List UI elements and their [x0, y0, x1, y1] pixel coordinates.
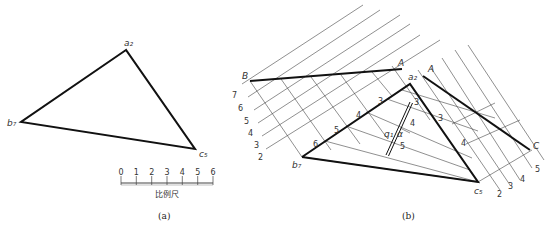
left-scale-7: 7	[232, 91, 237, 100]
scale-tick-3: 3	[165, 168, 170, 177]
angle-alpha-label: α	[397, 129, 403, 139]
right-scale-3: 3	[508, 182, 513, 191]
point-a2-label: a₂	[408, 72, 418, 82]
figure-b: B A a₂ A b₇ c₅ C 7 6 5 4 3 2 2 3 4 5 6 5…	[232, 5, 544, 221]
right-scale-2: 2	[497, 190, 502, 199]
caption-b: (b)	[402, 211, 415, 221]
right-scale-5: 5	[535, 165, 540, 174]
edge-mark-ac-3: 3	[438, 114, 443, 123]
point-B-label: B	[242, 71, 248, 81]
vertex-a2-label: a₂	[124, 38, 134, 48]
left-scale-3: 3	[254, 141, 259, 150]
left-scale-5: 5	[244, 117, 249, 126]
right-scale-4: 4	[520, 175, 525, 184]
edge-mark-6: 6	[313, 140, 318, 149]
q-mark-3: 3	[414, 98, 419, 107]
edge-mark-ac-4: 4	[461, 139, 466, 148]
caption-a: (a)	[158, 211, 170, 221]
point-A1-label: A	[397, 58, 404, 68]
scale-tick-6: 6	[211, 168, 216, 177]
point-c5-label: c₅	[474, 186, 483, 196]
scale-bar: 0 1 2 3 4 5 6 比例尺	[119, 168, 216, 199]
line-q1-label: q₁	[384, 129, 394, 139]
scale-tick-0: 0	[119, 168, 124, 177]
figure-a: a₂ b₇ c₅ 0 1 2 3 4 5 6 比例尺 (a)	[7, 38, 216, 221]
left-scale-4: 4	[248, 129, 253, 138]
scale-tick-1: 1	[134, 168, 139, 177]
q-mark-4: 4	[410, 119, 415, 128]
left-scale-2: 2	[258, 153, 263, 162]
edge-mark-3: 3	[378, 97, 383, 106]
edge-AC	[423, 76, 530, 150]
scale-tick-2: 2	[149, 168, 154, 177]
point-A2-label: A	[427, 64, 434, 74]
vertex-c5-label: c₅	[199, 149, 208, 159]
edge-mark-5: 5	[334, 126, 339, 135]
diagram-canvas: a₂ b₇ c₅ 0 1 2 3 4 5 6 比例尺 (a)	[0, 0, 550, 234]
triangle-abc	[21, 50, 195, 149]
scale-tick-5: 5	[195, 168, 200, 177]
vertex-b7-label: b₇	[7, 118, 17, 128]
q-mark-5: 5	[400, 142, 405, 151]
scale-tick-4: 4	[180, 168, 185, 177]
left-scale-6: 6	[238, 104, 243, 113]
point-C-label: C	[533, 141, 540, 151]
scale-bar-label: 比例尺	[155, 189, 179, 199]
point-b-label: b₇	[292, 160, 302, 170]
edge-mark-4: 4	[356, 111, 361, 120]
edge-BA	[250, 69, 402, 81]
projection-diagram: a₂ b₇ c₅ 0 1 2 3 4 5 6 比例尺 (a)	[0, 0, 550, 234]
